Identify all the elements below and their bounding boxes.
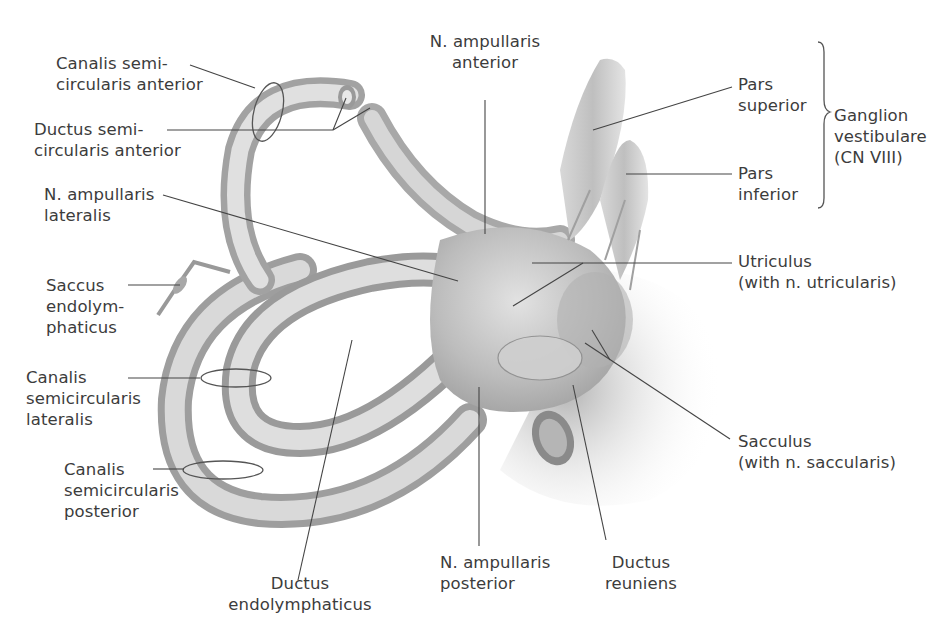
label-sacculus: Sacculus (with n. saccularis) [738,431,896,473]
label-line: Ductus [220,573,380,594]
label-line: Pars [738,74,807,95]
label-line: phaticus [46,317,124,338]
label-line: Canalis semi- [56,53,203,74]
label-line: Ductus semi- [34,119,181,140]
label-line: lateralis [44,205,155,226]
label-line: (CN VIII) [834,147,927,168]
label-line: circularis anterior [56,74,203,95]
label-line: Utriculus [738,251,897,272]
label-line: Canalis [26,367,141,388]
label-line: Pars [738,163,798,184]
label-line: endolym- [46,296,124,317]
label-line: N. ampullaris [400,31,570,52]
label-line: reuniens [596,573,686,594]
label-line: Ductus [596,552,686,573]
label-line: posterior [440,573,551,594]
label-saccus-endolymphaticus: Saccus endolym- phaticus [46,275,124,338]
label-line: circularis anterior [34,140,181,161]
label-line: superior [738,95,807,116]
label-line: N. ampullaris [44,184,155,205]
label-line: Saccus [46,275,124,296]
label-line: Sacculus [738,431,896,452]
label-canalis-semicircularis-posterior: Canalis semicircularis posterior [64,459,179,522]
label-pars-inferior: Pars inferior [738,163,798,205]
label-line: vestibulare [834,126,927,147]
label-line: posterior [64,501,179,522]
label-n-ampullaris-anterior: N. ampullaris anterior [400,31,570,73]
label-line: inferior [738,184,798,205]
label-canalis-semicircularis-anterior: Canalis semi- circularis anterior [56,53,203,95]
label-ductus-endolymphaticus: Ductus endolymphaticus [220,573,380,615]
label-utriculus: Utriculus (with n. utricularis) [738,251,897,293]
label-n-ampullaris-lateralis: N. ampullaris lateralis [44,184,155,226]
label-line: (with n. utricularis) [738,272,897,293]
label-line: N. ampullaris [440,552,551,573]
label-line: semicircularis [64,480,179,501]
label-line: endolymphaticus [220,594,380,615]
label-ganglion-vestibulare: Ganglion vestibulare (CN VIII) [834,105,927,168]
label-line: (with n. saccularis) [738,452,896,473]
label-pars-superior: Pars superior [738,74,807,116]
label-ductus-reuniens: Ductus reuniens [596,552,686,594]
anterior-ampulla [372,118,560,243]
ganglion-brace [818,42,830,208]
label-canalis-semicircularis-lateralis: Canalis semicircularis lateralis [26,367,141,430]
label-ductus-semicircularis-anterior: Ductus semi- circularis anterior [34,119,181,161]
label-line: Ganglion [834,105,927,126]
label-line: anterior [400,52,570,73]
label-line: lateralis [26,409,141,430]
label-line: Canalis [64,459,179,480]
label-n-ampullaris-posterior: N. ampullaris posterior [440,552,551,594]
label-line: semicircularis [26,388,141,409]
